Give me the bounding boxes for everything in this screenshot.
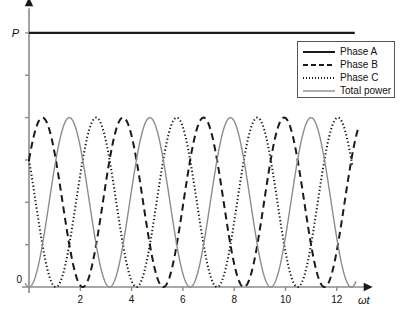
- legend-swatch-phase-c: [302, 72, 336, 84]
- chart-container: 24681012Pωt0 Phase A Phase B Phase C Tot…: [0, 0, 412, 324]
- x-axis-arrow: [364, 283, 373, 291]
- x-tick-label: 4: [129, 294, 135, 305]
- legend-label-phase-b: Phase B: [340, 58, 378, 71]
- x-tick-label: 10: [280, 294, 292, 305]
- legend-item-phase-b: Phase B: [302, 58, 390, 71]
- series-total-power: [25, 118, 356, 287]
- legend-swatch-phase-a: [302, 46, 336, 58]
- legend-swatch-total-power: [302, 85, 336, 97]
- legend-label-total-power: Total power: [340, 84, 391, 97]
- x-tick-label: 12: [331, 294, 343, 305]
- x-tick-label: 8: [231, 294, 237, 305]
- legend-item-phase-a: Phase A: [302, 45, 390, 58]
- legend-label-phase-c: Phase C: [340, 71, 378, 84]
- legend-item-phase-c: Phase C: [302, 71, 390, 84]
- series-phase-c: [29, 118, 352, 287]
- chart-legend: Phase A Phase B Phase C Total power: [297, 41, 395, 98]
- y-axis-label: P: [12, 27, 20, 39]
- x-tick-label: 2: [78, 294, 84, 305]
- y-axis-arrow: [25, 0, 33, 6]
- x-tick-label: 6: [180, 294, 186, 305]
- legend-label-phase-a: Phase A: [340, 45, 377, 58]
- series-phase-b: [29, 118, 359, 287]
- legend-item-total-power: Total power: [302, 84, 390, 97]
- x-axis-label: ωt: [358, 294, 371, 306]
- origin-label: 0: [16, 274, 22, 285]
- legend-swatch-phase-b: [302, 59, 336, 71]
